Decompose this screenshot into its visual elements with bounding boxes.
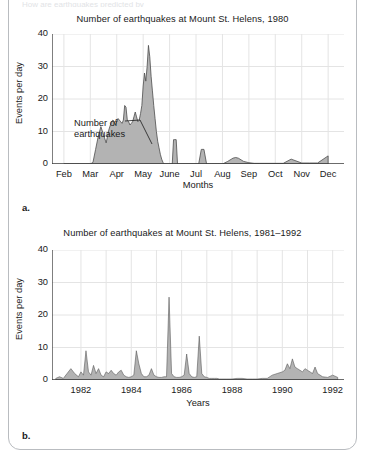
y-tick-label: 0 <box>26 375 48 384</box>
panel-letter-b: b. <box>22 430 30 441</box>
data-area-earthquakes <box>56 297 338 380</box>
chart-a-y-axis-label: Events per day <box>14 62 24 124</box>
x-tick-label: Apr <box>110 170 124 179</box>
x-tick-label: Dec <box>320 170 337 179</box>
figure-b: Number of earthquakes at Mount St. Helen… <box>0 228 365 453</box>
y-tick-label: 20 <box>26 310 48 319</box>
x-tick-label: 1984 <box>121 386 142 395</box>
chart-a-plot-area: 403020100FebMarAprMayJuneJulAugSepOctNov… <box>52 34 344 164</box>
x-tick-label: 1986 <box>171 386 192 395</box>
y-tick-label: 20 <box>26 94 48 103</box>
y-tick-label: 10 <box>26 127 48 136</box>
chart-b-title: Number of earthquakes at Mount St. Helen… <box>0 228 365 238</box>
chart-b-y-axis-label: Events per day <box>14 278 24 340</box>
clipped-top-caption: How are earthquakes predicted by <box>22 0 252 7</box>
plot-a-svg <box>52 34 344 164</box>
x-tick-label: Sep <box>241 170 258 179</box>
y-tick-label: 40 <box>26 29 48 38</box>
chart-a-title: Number of earthquakes at Mount St. Helen… <box>0 14 365 24</box>
y-tick-label: 40 <box>26 245 48 254</box>
y-tick-label: 0 <box>26 159 48 168</box>
x-tick-label: 1992 <box>322 386 343 395</box>
x-tick-label: June <box>159 170 179 179</box>
x-tick-label: Feb <box>56 170 72 179</box>
y-tick-label: 10 <box>26 343 48 352</box>
plot-b-svg <box>52 250 344 380</box>
x-tick-label: 1988 <box>222 386 243 395</box>
x-tick-label: May <box>134 170 152 179</box>
annotation-line-1: Number of <box>74 118 125 129</box>
x-tick-label: Mar <box>82 170 98 179</box>
x-tick-label: 1982 <box>71 386 92 395</box>
x-tick-label: 1990 <box>272 386 293 395</box>
chart-a-annotation: Number of earthquakes <box>74 118 125 139</box>
x-tick-label: Jul <box>190 170 202 179</box>
chart-a-plot-wrap: 403020100FebMarAprMayJuneJulAugSepOctNov… <box>52 34 344 164</box>
x-tick-label: Oct <box>268 170 282 179</box>
x-tick-label: Nov <box>293 170 310 179</box>
panel-letter-a: a. <box>22 202 30 213</box>
x-tick-label: Aug <box>214 170 231 179</box>
chart-b-x-axis-label: Years <box>52 398 344 408</box>
y-tick-label: 30 <box>26 278 48 287</box>
figure-a: Number of earthquakes at Mount St. Helen… <box>0 14 365 222</box>
y-tick-label: 30 <box>26 62 48 71</box>
chart-b-plot-area: 403020100198219841986198819901992 <box>52 250 344 380</box>
chart-a-x-axis-label: Months <box>52 180 344 190</box>
annotation-line-2: earthquakes <box>74 129 125 140</box>
chart-b-plot-wrap: 403020100198219841986198819901992 Years <box>52 250 344 380</box>
